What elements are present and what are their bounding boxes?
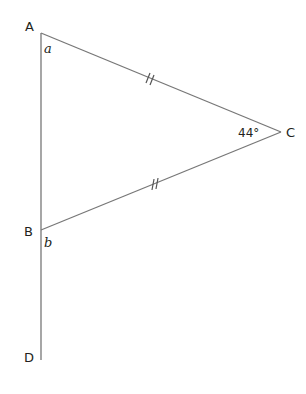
triangle-diagram: A a C 44° B b D xyxy=(0,0,306,394)
label-d-vertex: D xyxy=(24,350,34,365)
equal-mark-ac xyxy=(146,73,154,85)
label-b-vertex: B xyxy=(24,224,33,239)
side-ac xyxy=(41,33,281,132)
label-a-vertex: A xyxy=(25,19,34,34)
angle-label-c: 44° xyxy=(238,126,259,140)
angle-label-b: b xyxy=(44,235,52,250)
label-c-vertex: C xyxy=(286,125,295,140)
side-bc xyxy=(41,132,281,230)
angle-label-a: a xyxy=(44,41,52,56)
